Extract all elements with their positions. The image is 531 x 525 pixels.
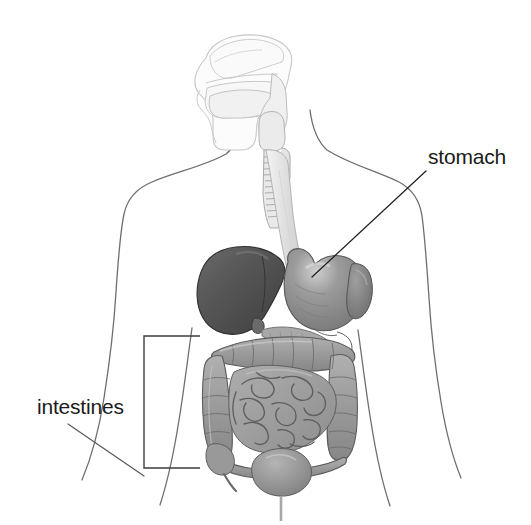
stomach-label: stomach <box>428 145 506 168</box>
stomach-leader-line <box>312 171 426 277</box>
spleen <box>347 264 373 319</box>
body-outline-hip-right <box>358 330 390 506</box>
intestines-leader-line <box>68 424 144 476</box>
appendix <box>224 474 236 491</box>
bladder <box>252 449 312 521</box>
liver <box>197 246 284 334</box>
larynx <box>259 111 285 151</box>
body-outline-hip-left <box>160 328 192 505</box>
liver-body <box>197 246 284 334</box>
intestines-label: intestines <box>37 395 124 418</box>
small-intestine <box>229 365 336 453</box>
digestive-system-figure: stomach intestines <box>0 0 531 525</box>
illustration-canvas: stomach intestines <box>0 0 531 525</box>
intestines-bracket <box>144 336 200 468</box>
head-profile <box>195 35 292 151</box>
bracket-path <box>144 336 200 468</box>
